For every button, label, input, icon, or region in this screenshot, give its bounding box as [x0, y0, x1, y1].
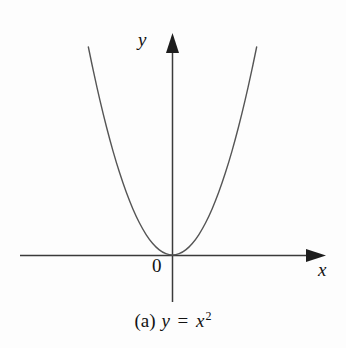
x-axis-label: x [318, 260, 326, 279]
figure-container: y x 0 (a) y = x2 [0, 0, 346, 348]
y-axis-arrowhead [166, 33, 179, 53]
parabola-plot [0, 0, 346, 348]
figure-caption: (a) y = x2 [0, 310, 346, 333]
caption-lhs-variable: y [160, 310, 170, 331]
caption-exponent: 2 [205, 309, 211, 323]
caption-equals-sign: = [176, 310, 191, 331]
caption-index: (a) [135, 310, 156, 331]
caption-base-variable: x [195, 310, 205, 331]
y-axis-label: y [138, 30, 146, 49]
origin-label: 0 [152, 256, 162, 275]
